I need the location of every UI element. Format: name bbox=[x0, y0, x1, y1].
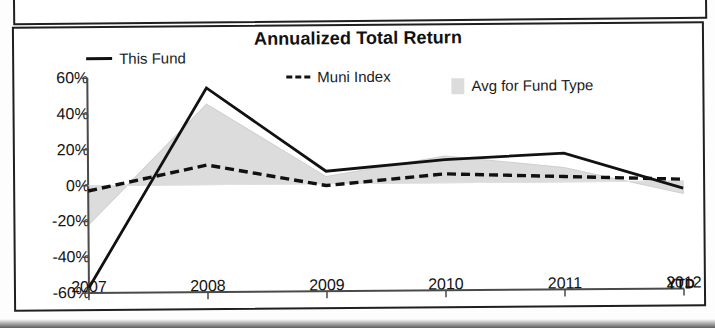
chart-frame: Annualized Total Return This Fund Muni I… bbox=[12, 21, 706, 311]
x-axis-tick-label: 2011 bbox=[548, 274, 583, 292]
plot-region bbox=[87, 73, 684, 293]
x-axis-labels: YTD 200720082009201020112012 bbox=[89, 269, 699, 306]
chart-area: Annualized Total Return This Fund Muni I… bbox=[14, 23, 704, 309]
series-line-this-fund bbox=[87, 84, 684, 288]
x-axis-tick-label: 2009 bbox=[309, 276, 345, 294]
scan-bottom-smudge bbox=[0, 319, 715, 328]
x-axis-tick-label: 2010 bbox=[428, 275, 464, 293]
y-axis-labels: 60%40%20%0%-20%-40%-60% bbox=[26, 78, 90, 293]
x-axis-tick-label: 2007 bbox=[71, 278, 107, 296]
legend-label-this-fund: This Fund bbox=[119, 49, 186, 67]
x-axis-tick-label: 2008 bbox=[190, 277, 226, 295]
solid-line-swatch-icon bbox=[86, 57, 112, 60]
scanned-page: Annualized Total Return This Fund Muni I… bbox=[0, 0, 715, 328]
x-axis-tick-label: 2012 bbox=[666, 273, 702, 291]
legend-item-this-fund: This Fund bbox=[86, 49, 186, 67]
line-series-group bbox=[87, 84, 684, 288]
chart-svg bbox=[87, 73, 684, 293]
axis-group bbox=[81, 73, 684, 300]
